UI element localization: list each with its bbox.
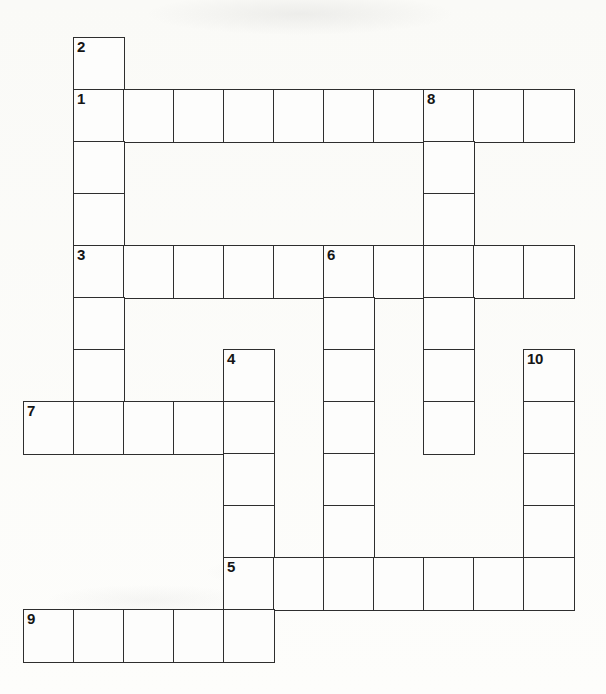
crossword-cell[interactable]	[273, 557, 325, 611]
crossword-cell[interactable]: 9	[23, 609, 75, 663]
crossword-cell[interactable]	[373, 557, 425, 611]
crossword-cell[interactable]	[423, 557, 475, 611]
crossword-cell[interactable]	[173, 89, 225, 143]
crossword-cell[interactable]	[473, 89, 525, 143]
crossword-cell[interactable]	[323, 89, 375, 143]
crossword-cell[interactable]	[73, 141, 125, 195]
crossword-cell[interactable]: 8	[423, 89, 475, 143]
cell-number: 10	[527, 350, 543, 367]
crossword-cell[interactable]: 4	[223, 349, 275, 403]
cell-number: 3	[77, 246, 85, 263]
cell-number: 9	[27, 610, 35, 627]
crossword-cell[interactable]	[523, 89, 575, 143]
crossword-cell[interactable]	[523, 505, 575, 559]
crossword-cell[interactable]	[73, 401, 125, 455]
crossword-cell[interactable]	[523, 453, 575, 507]
crossword-cell[interactable]	[123, 89, 175, 143]
crossword-cell[interactable]	[73, 609, 125, 663]
crossword-cell[interactable]: 1	[73, 89, 125, 143]
crossword-cell[interactable]	[323, 453, 375, 507]
cell-number: 4	[227, 350, 235, 367]
crossword-cell[interactable]	[373, 245, 425, 299]
crossword-cell[interactable]: 7	[23, 401, 75, 455]
crossword-cell[interactable]	[123, 609, 175, 663]
crossword-cell[interactable]: 6	[323, 245, 375, 299]
crossword-cell[interactable]	[223, 453, 275, 507]
crossword-puzzle: 21836410759	[0, 0, 606, 694]
cell-number: 2	[77, 38, 85, 55]
cell-number: 8	[427, 90, 435, 107]
crossword-cell[interactable]	[473, 557, 525, 611]
cell-number: 5	[227, 558, 235, 575]
crossword-cell[interactable]	[523, 245, 575, 299]
crossword-cell[interactable]	[173, 609, 225, 663]
crossword-cell[interactable]	[423, 401, 475, 455]
crossword-cell[interactable]	[223, 609, 275, 663]
crossword-cell[interactable]	[223, 505, 275, 559]
crossword-cell[interactable]	[523, 401, 575, 455]
crossword-cell[interactable]	[473, 245, 525, 299]
crossword-cell[interactable]	[173, 401, 225, 455]
cell-number: 6	[327, 246, 335, 263]
crossword-cell[interactable]	[323, 557, 375, 611]
crossword-cell[interactable]: 2	[73, 37, 125, 91]
crossword-cell[interactable]	[323, 297, 375, 351]
crossword-cell[interactable]	[323, 505, 375, 559]
crossword-cell[interactable]: 3	[73, 245, 125, 299]
cell-number: 7	[27, 402, 35, 419]
crossword-cell[interactable]	[273, 245, 325, 299]
crossword-cell[interactable]: 5	[223, 557, 275, 611]
crossword-cell[interactable]	[73, 349, 125, 403]
crossword-cell[interactable]	[523, 557, 575, 611]
crossword-cell[interactable]	[423, 193, 475, 247]
crossword-cell[interactable]	[373, 89, 425, 143]
cell-number: 1	[77, 90, 85, 107]
crossword-cell[interactable]	[173, 245, 225, 299]
crossword-cell[interactable]	[323, 349, 375, 403]
crossword-cell[interactable]	[223, 89, 275, 143]
crossword-cell[interactable]	[123, 245, 175, 299]
crossword-cell[interactable]	[423, 141, 475, 195]
crossword-cell[interactable]	[223, 245, 275, 299]
crossword-cell[interactable]	[223, 401, 275, 455]
crossword-cell[interactable]	[123, 401, 175, 455]
crossword-cell[interactable]	[423, 245, 475, 299]
crossword-cell[interactable]	[323, 401, 375, 455]
crossword-cell[interactable]	[273, 89, 325, 143]
crossword-cell[interactable]	[423, 349, 475, 403]
crossword-cell[interactable]: 10	[523, 349, 575, 403]
crossword-cell[interactable]	[73, 193, 125, 247]
crossword-cell[interactable]	[423, 297, 475, 351]
crossword-cell[interactable]	[73, 297, 125, 351]
